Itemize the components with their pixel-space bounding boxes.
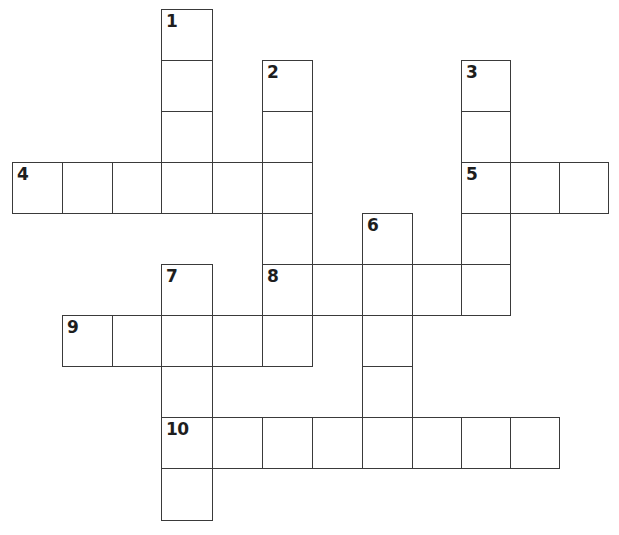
crossword-cell-r8-c6[interactable] bbox=[312, 417, 363, 469]
crossword-cell-r3-c4[interactable] bbox=[212, 162, 263, 214]
clue-number-1: 1 bbox=[166, 13, 177, 30]
clue-number-10: 10 bbox=[166, 421, 189, 438]
crossword-cell-r9-c3[interactable] bbox=[161, 468, 213, 521]
crossword-cell-r3-c9[interactable]: 5 bbox=[461, 162, 511, 214]
crossword-cell-r5-c8[interactable] bbox=[412, 264, 462, 316]
crossword-cell-r8-c9[interactable] bbox=[461, 417, 511, 469]
crossword-cell-r5-c6[interactable] bbox=[312, 264, 363, 316]
crossword-cell-r3-c2[interactable] bbox=[112, 162, 162, 214]
crossword-cell-r5-c5[interactable]: 8 bbox=[262, 264, 313, 316]
crossword-cell-r2-c9[interactable] bbox=[461, 111, 511, 163]
crossword-cell-r8-c7[interactable] bbox=[362, 417, 413, 469]
clue-number-9: 9 bbox=[67, 319, 78, 336]
crossword-cell-r8-c8[interactable] bbox=[412, 417, 462, 469]
crossword-cell-r5-c3[interactable]: 7 bbox=[161, 264, 213, 316]
crossword-cell-r3-c0[interactable]: 4 bbox=[12, 162, 63, 214]
crossword-cell-r1-c3[interactable] bbox=[161, 60, 213, 112]
crossword-cell-r8-c5[interactable] bbox=[262, 417, 313, 469]
crossword-cell-r1-c5[interactable]: 2 bbox=[262, 60, 313, 112]
clue-number-6: 6 bbox=[367, 217, 378, 234]
crossword-cell-r4-c7[interactable]: 6 bbox=[362, 213, 413, 265]
crossword-cell-r6-c7[interactable] bbox=[362, 315, 413, 367]
crossword-cell-r2-c3[interactable] bbox=[161, 111, 213, 163]
crossword-cell-r7-c3[interactable] bbox=[161, 366, 213, 418]
crossword-cell-r8-c3[interactable]: 10 bbox=[161, 417, 213, 469]
crossword-cell-r6-c5[interactable] bbox=[262, 315, 313, 367]
crossword-cell-r8-c4[interactable] bbox=[212, 417, 263, 469]
clue-number-3: 3 bbox=[466, 64, 477, 81]
crossword-cell-r6-c3[interactable] bbox=[161, 315, 213, 367]
crossword-cell-r2-c5[interactable] bbox=[262, 111, 313, 163]
crossword-cell-r5-c7[interactable] bbox=[362, 264, 413, 316]
crossword-cell-r6-c1[interactable]: 9 bbox=[62, 315, 113, 367]
crossword-cell-r4-c5[interactable] bbox=[262, 213, 313, 265]
clue-number-7: 7 bbox=[166, 268, 177, 285]
crossword-cell-r3-c5[interactable] bbox=[262, 162, 313, 214]
crossword-cell-r3-c10[interactable] bbox=[510, 162, 560, 214]
crossword-cell-r1-c9[interactable]: 3 bbox=[461, 60, 511, 112]
crossword-cell-r0-c3[interactable]: 1 bbox=[161, 9, 213, 61]
clue-number-4: 4 bbox=[17, 166, 28, 183]
crossword-cell-r4-c9[interactable] bbox=[461, 213, 511, 265]
crossword-cell-r6-c2[interactable] bbox=[112, 315, 162, 367]
clue-number-5: 5 bbox=[466, 166, 477, 183]
crossword-cell-r8-c10[interactable] bbox=[510, 417, 560, 469]
crossword-cell-r5-c9[interactable] bbox=[461, 264, 511, 316]
crossword-cell-r6-c4[interactable] bbox=[212, 315, 263, 367]
crossword-cell-r7-c7[interactable] bbox=[362, 366, 413, 418]
crossword-cell-r3-c1[interactable] bbox=[62, 162, 113, 214]
clue-number-8: 8 bbox=[267, 268, 278, 285]
crossword-grid: 12835467109 bbox=[0, 0, 619, 535]
crossword-cell-r3-c11[interactable] bbox=[559, 162, 609, 214]
crossword-cell-r3-c3[interactable] bbox=[161, 162, 213, 214]
clue-number-2: 2 bbox=[267, 64, 278, 81]
